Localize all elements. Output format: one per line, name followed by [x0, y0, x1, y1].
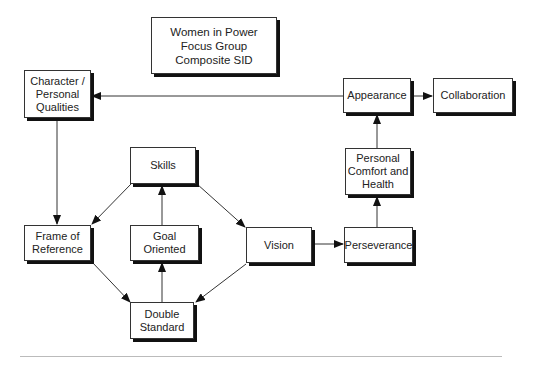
node-perseverance: Perseverance	[344, 227, 413, 263]
node-skills: Skills	[130, 147, 196, 184]
node-goal-oriented: Goal Oriented	[130, 225, 199, 261]
edge-skills-frame	[92, 184, 131, 224]
node-personal-comfort-health: Personal Comfort and Health	[345, 148, 411, 195]
node-double-standard: Double Standard	[130, 302, 194, 339]
node-collaboration: Collaboration	[433, 78, 513, 113]
diagram-title: Women in Power Focus Group Composite SID	[151, 17, 277, 74]
edge-skills-vision	[197, 184, 245, 227]
edge-vision-double	[196, 264, 246, 302]
diagram-canvas: Women in Power Focus Group Composite SID…	[0, 0, 540, 367]
node-frame-of-reference: Frame of Reference	[24, 225, 91, 261]
edge-frame-double	[92, 262, 130, 302]
node-character-personal-qualities: Character / Personal Qualities	[24, 70, 91, 118]
node-vision: Vision	[246, 227, 312, 263]
horizontal-rule	[20, 356, 502, 357]
node-appearance: Appearance	[343, 78, 411, 113]
